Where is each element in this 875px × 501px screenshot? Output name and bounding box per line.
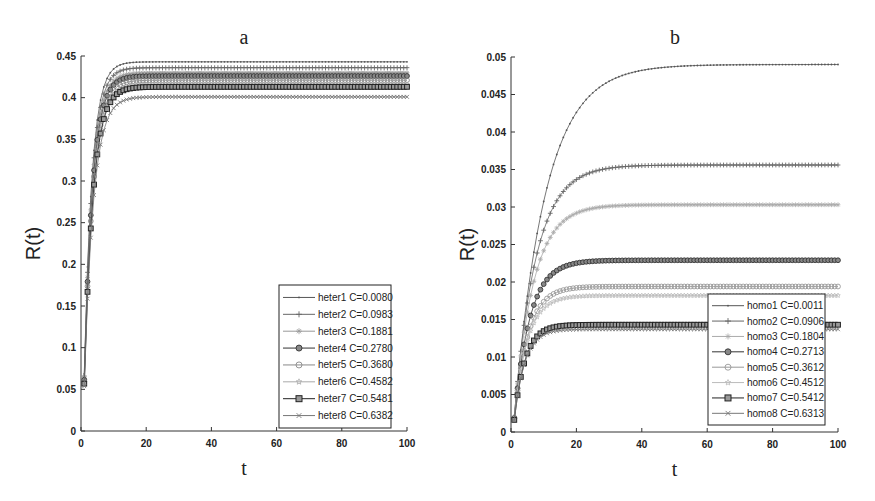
y-tick-label: 0.35 bbox=[57, 134, 77, 145]
y-axis-label: R(t) bbox=[456, 228, 478, 261]
y-tick-label: 0.04 bbox=[487, 127, 507, 138]
legend-label: heter2 C=0.0983 bbox=[318, 309, 393, 320]
legend-box bbox=[708, 294, 825, 425]
y-tick-label: 0.4 bbox=[62, 92, 76, 103]
figure: a00.050.10.150.20.250.30.350.40.45020406… bbox=[0, 0, 875, 501]
y-tick-label: 0 bbox=[500, 427, 506, 438]
y-tick-label: 0.025 bbox=[481, 239, 506, 250]
x-tick-label: 60 bbox=[702, 439, 714, 450]
legend: heter1 C=0.0080heter2 C=0.0983heter3 C=0… bbox=[279, 285, 393, 428]
chart-title: a bbox=[240, 26, 249, 48]
y-tick-label: 0.25 bbox=[57, 217, 77, 228]
legend-label: homo8 C=0.6313 bbox=[747, 408, 824, 419]
y-tick-label: 0.03 bbox=[487, 202, 507, 213]
legend-label: homo2 C=0.0906 bbox=[747, 316, 824, 327]
y-tick-label: 0.05 bbox=[57, 384, 77, 395]
legend-label: heter4 C=0.2780 bbox=[318, 343, 393, 354]
y-tick-label: 0.045 bbox=[481, 89, 506, 100]
y-tick-label: 0 bbox=[70, 426, 76, 437]
legend: homo1 C=0.0011homo2 C=0.0906homo3 C=0.18… bbox=[708, 294, 825, 425]
x-axis-label: t bbox=[672, 458, 678, 480]
y-axis-label: R(t) bbox=[22, 227, 44, 260]
y-tick-label: 0.15 bbox=[57, 301, 77, 312]
legend-label: heter6 C=0.4582 bbox=[318, 376, 393, 387]
y-tick-label: 0.005 bbox=[481, 389, 506, 400]
x-tick-label: 80 bbox=[336, 438, 348, 449]
x-axis-label: t bbox=[241, 457, 247, 479]
x-tick-label: 100 bbox=[399, 438, 416, 449]
y-tick-label: 0.02 bbox=[487, 277, 507, 288]
legend-label: heter5 C=0.3680 bbox=[318, 359, 393, 370]
legend-label: homo4 C=0.2713 bbox=[747, 346, 824, 357]
y-tick-label: 0.1 bbox=[62, 342, 76, 353]
x-tick-label: 0 bbox=[78, 438, 84, 449]
legend-label: homo1 C=0.0011 bbox=[747, 300, 824, 311]
y-tick-label: 0.2 bbox=[62, 259, 76, 270]
x-tick-label: 40 bbox=[636, 439, 648, 450]
legend-label: heter7 C=0.5481 bbox=[318, 393, 393, 404]
legend-label: heter3 C=0.1881 bbox=[318, 326, 393, 337]
y-tick-label: 0.035 bbox=[481, 164, 506, 175]
y-tick-label: 0.05 bbox=[487, 52, 507, 63]
legend-label: homo6 C=0.4512 bbox=[747, 377, 824, 388]
x-tick-label: 20 bbox=[571, 439, 583, 450]
x-tick-label: 20 bbox=[141, 438, 153, 449]
chart-panel-b: b00.0050.010.0150.020.0250.030.0350.040.… bbox=[456, 26, 847, 480]
legend-box bbox=[279, 285, 391, 428]
x-tick-label: 0 bbox=[508, 439, 514, 450]
x-tick-label: 40 bbox=[206, 438, 218, 449]
legend-label: homo3 C=0.1804 bbox=[747, 331, 824, 342]
chart-panel-a: a00.050.10.150.20.250.30.350.40.45020406… bbox=[22, 26, 416, 479]
legend-label: heter1 C=0.0080 bbox=[318, 292, 393, 303]
x-tick-label: 80 bbox=[767, 439, 779, 450]
y-tick-label: 0.01 bbox=[487, 352, 507, 363]
y-tick-label: 0.45 bbox=[57, 51, 77, 62]
x-tick-label: 60 bbox=[271, 438, 283, 449]
legend-label: homo7 C=0.5412 bbox=[747, 392, 824, 403]
x-tick-label: 100 bbox=[830, 439, 847, 450]
legend-label: homo5 C=0.3612 bbox=[747, 362, 824, 373]
y-tick-label: 0.3 bbox=[62, 176, 76, 187]
y-tick-label: 0.015 bbox=[481, 314, 506, 325]
legend-label: heter8 C=0.6382 bbox=[318, 410, 393, 421]
chart-title: b bbox=[670, 26, 680, 48]
